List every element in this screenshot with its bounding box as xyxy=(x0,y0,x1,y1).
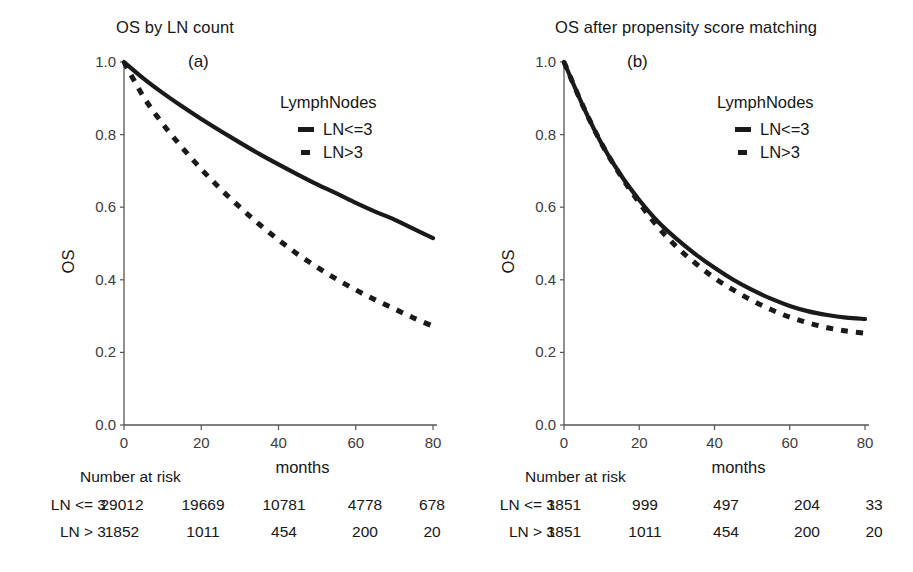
panel-a-legend: LymphNodes LN<=3 LN>3 xyxy=(280,93,377,165)
y-axis-title: OS xyxy=(59,250,77,274)
risk-cell: 1011 xyxy=(614,523,676,541)
y-axis-tick-label: 0.4 xyxy=(535,271,556,288)
panel-b-plot: 0.00.20.40.60.81.0020406080monthsOS xyxy=(455,0,913,572)
x-axis-tick-label: 20 xyxy=(193,434,210,451)
panel-a-plot: 0.00.20.40.60.81.0020406080monthsOS xyxy=(0,0,455,572)
panel-b: OS after propensity score matching (b) 0… xyxy=(455,0,913,572)
risk-table-heading: Number at risk xyxy=(525,468,626,486)
legend-item-label: LN<=3 xyxy=(760,120,810,139)
risk-cell: 1852 xyxy=(91,523,153,541)
x-axis-tick-label: 0 xyxy=(560,434,568,451)
table-row: LN <= 3 1851 999 497 204 33 xyxy=(463,496,908,522)
legend-title: LymphNodes xyxy=(280,93,377,112)
table-row: LN <= 3 29012 19669 10781 4778 678 xyxy=(14,496,454,522)
y-axis-tick-label: 0.6 xyxy=(535,198,556,215)
dashed-line-swatch-icon xyxy=(301,150,310,155)
x-axis-tick-label: 0 xyxy=(120,434,128,451)
y-axis-tick-label: 1.0 xyxy=(95,53,116,70)
risk-cell: 200 xyxy=(334,523,396,541)
y-axis-tick-label: 0.2 xyxy=(95,343,116,360)
panel-b-legend: LymphNodes LN<=3 LN>3 xyxy=(717,93,814,165)
y-axis-title: OS xyxy=(499,250,517,274)
panel-a: OS by LN count (a) 0.00.20.40.60.81.0020… xyxy=(0,0,455,572)
y-axis-tick-label: 0.0 xyxy=(535,416,556,433)
dashed-line-swatch-icon xyxy=(738,150,747,155)
legend-item-label: LN<=3 xyxy=(323,120,373,139)
risk-cell: 204 xyxy=(776,496,838,514)
legend-item-label: LN>3 xyxy=(760,143,800,162)
risk-cell: 999 xyxy=(614,496,676,514)
risk-cell: 200 xyxy=(776,523,838,541)
legend-item-ln-gt-3[interactable]: LN>3 xyxy=(735,142,814,163)
x-axis-tick-label: 60 xyxy=(781,434,798,451)
table-row: LN > 3 1851 1011 454 200 20 xyxy=(463,523,908,549)
series-line-ln3 xyxy=(564,62,865,319)
risk-cell: 454 xyxy=(253,523,315,541)
x-axis-tick-label: 80 xyxy=(425,434,442,451)
x-axis-tick-label: 20 xyxy=(631,434,648,451)
solid-line-swatch-icon xyxy=(735,127,751,132)
risk-cell: 33 xyxy=(843,496,905,514)
y-axis-tick-label: 1.0 xyxy=(535,53,556,70)
risk-cell: 20 xyxy=(843,523,905,541)
series-line-ln3 xyxy=(564,62,865,333)
risk-cell: 1851 xyxy=(533,523,595,541)
legend-item-ln-le-3[interactable]: LN<=3 xyxy=(735,119,814,140)
figure-container: OS by LN count (a) 0.00.20.40.60.81.0020… xyxy=(0,0,913,572)
x-axis-title: months xyxy=(711,458,765,476)
y-axis-tick-label: 0.4 xyxy=(95,271,116,288)
table-row: LN > 3 1852 1011 454 200 20 xyxy=(14,523,454,549)
risk-cell: 497 xyxy=(695,496,757,514)
y-axis-tick-label: 0.6 xyxy=(95,198,116,215)
risk-cell: 4778 xyxy=(334,496,396,514)
solid-line-swatch-icon xyxy=(298,127,314,132)
risk-cell: 1011 xyxy=(172,523,234,541)
risk-table-heading: Number at risk xyxy=(80,468,181,486)
legend-item-ln-gt-3[interactable]: LN>3 xyxy=(298,142,377,163)
x-axis-title: months xyxy=(275,458,329,476)
y-axis-tick-label: 0.8 xyxy=(95,126,116,143)
y-axis-tick-label: 0.0 xyxy=(95,416,116,433)
risk-cell: 29012 xyxy=(91,496,153,514)
risk-cell: 19669 xyxy=(172,496,234,514)
series-line-ln3 xyxy=(124,62,433,326)
x-axis-tick-label: 80 xyxy=(857,434,874,451)
y-axis-tick-label: 0.8 xyxy=(535,126,556,143)
risk-cell: 678 xyxy=(401,496,463,514)
risk-cell: 20 xyxy=(401,523,463,541)
series-line-ln3 xyxy=(124,62,433,238)
x-axis-tick-label: 60 xyxy=(347,434,364,451)
x-axis-tick-label: 40 xyxy=(706,434,723,451)
risk-cell: 454 xyxy=(695,523,757,541)
y-axis-tick-label: 0.2 xyxy=(535,343,556,360)
risk-cell: 1851 xyxy=(533,496,595,514)
risk-cell: 10781 xyxy=(253,496,315,514)
x-axis-tick-label: 40 xyxy=(270,434,287,451)
legend-item-label: LN>3 xyxy=(323,143,363,162)
legend-item-ln-le-3[interactable]: LN<=3 xyxy=(298,119,377,140)
legend-title: LymphNodes xyxy=(717,93,814,112)
